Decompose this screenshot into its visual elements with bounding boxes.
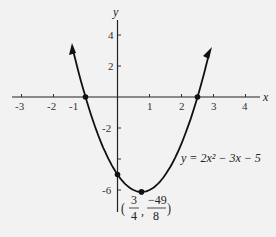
y-axis-label: y	[112, 5, 119, 19]
y-tick-labels: 4 2 -2 -6	[102, 29, 114, 196]
svg-text:-2: -2	[47, 100, 56, 112]
svg-text:2: 2	[179, 100, 185, 112]
svg-text:-6: -6	[102, 184, 112, 196]
svg-text:4: 4	[108, 29, 114, 41]
svg-text:-3: -3	[15, 100, 25, 112]
equation-label: y = 2x² − 3x − 5	[180, 151, 261, 165]
x-axis-label: x	[262, 90, 269, 104]
svg-text:2: 2	[108, 60, 114, 72]
root-point-right	[195, 94, 201, 100]
y-intercept-point	[115, 172, 121, 178]
x-tick-labels: -3 -2 -1 1 2 3 4	[15, 100, 248, 112]
svg-text:3: 3	[211, 100, 217, 112]
right-arrowhead-icon	[203, 47, 212, 59]
svg-text:4: 4	[131, 209, 137, 223]
parabola-curve	[73, 49, 210, 192]
svg-text:): )	[167, 200, 171, 216]
svg-text:−49: −49	[148, 193, 167, 207]
left-arrowhead-icon	[69, 43, 76, 55]
svg-text:8: 8	[153, 209, 159, 223]
parabola-chart: x y -3 -2 -1 1 2 3 4 4 2 -2 -6	[0, 0, 276, 237]
svg-text:4: 4	[242, 100, 248, 112]
vertex-point	[139, 189, 145, 195]
svg-text:,: ,	[141, 204, 144, 218]
svg-text:(: (	[121, 200, 125, 216]
vertex-label: ( 3 4 , −49 8 )	[121, 193, 171, 223]
svg-text:1: 1	[147, 100, 153, 112]
svg-text:-2: -2	[102, 122, 111, 134]
svg-text:3: 3	[131, 193, 137, 207]
root-point-left	[83, 94, 89, 100]
svg-text:-1: -1	[69, 100, 78, 112]
